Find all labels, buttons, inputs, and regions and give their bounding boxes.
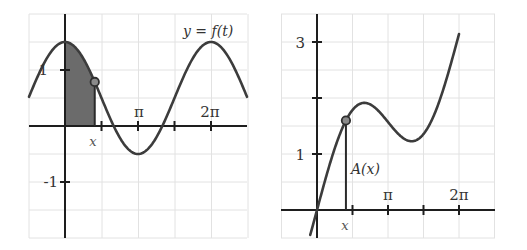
area-function-label: A(x) xyxy=(349,161,380,177)
figure: y = f(t) 1 -1 π 2π x 3 1 π 2π A(x) x xyxy=(0,0,527,250)
curve-A xyxy=(310,34,459,235)
left-x-label-pi: π xyxy=(134,103,144,121)
left-y-label-1: 1 xyxy=(38,61,48,79)
left-y-label-neg1: -1 xyxy=(43,173,58,191)
right-x-label-pi: π xyxy=(383,186,393,204)
right-x-marker-label: x xyxy=(341,218,349,233)
right-y-label-1: 1 xyxy=(295,146,305,164)
right-grid xyxy=(281,14,495,238)
left-graph: y = f(t) 1 -1 π 2π x xyxy=(29,14,248,238)
right-graph: 3 1 π 2π A(x) x xyxy=(281,14,495,238)
left-x-label-2pi: 2π xyxy=(200,103,220,121)
point-on-f xyxy=(91,78,99,86)
left-title-label: y = f(t) xyxy=(182,23,233,39)
right-y-label-3: 3 xyxy=(295,34,305,52)
right-x-label-2pi: 2π xyxy=(449,186,469,204)
left-x-marker-label: x xyxy=(89,134,97,149)
point-on-A xyxy=(342,116,350,124)
